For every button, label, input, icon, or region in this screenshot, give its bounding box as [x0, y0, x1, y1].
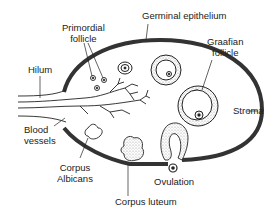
label-corpus-albicans: Corpus Albicans [57, 162, 93, 184]
label-primordial-follicle: Primordial follicle [62, 22, 105, 44]
graafian-follicle [178, 86, 218, 126]
label-line: vessels [24, 135, 56, 146]
ovary-diagram: Primordial follicle Germinal epithelium … [0, 0, 278, 216]
corpus-luteum [121, 136, 144, 160]
corpus-albicans [85, 124, 102, 139]
primordial-follicles [91, 76, 107, 91]
hilum-vessels [18, 78, 150, 122]
label-hilum: Hilum [28, 64, 52, 75]
label-blood-vessels: Blood vessels [24, 124, 56, 146]
label-line: Primordial [62, 22, 105, 33]
label-ovulation: Ovulation [154, 176, 194, 187]
label-stroma: Stroma [233, 105, 264, 116]
label-line: Corpus [57, 162, 93, 173]
ruptured-follicle [161, 123, 188, 160]
label-germinal-epithelium: Germinal epithelium [142, 10, 226, 21]
label-line: follicle [62, 33, 105, 44]
label-line: Albicans [57, 173, 93, 184]
label-line: Graafian [207, 36, 243, 47]
label-line: follicle [207, 47, 243, 58]
secondary-follicle [151, 55, 181, 85]
label-corpus-luteum: Corpus luteum [115, 196, 177, 207]
growing-follicle [118, 62, 132, 74]
released-ovum [169, 164, 177, 172]
label-graafian-follicle: Graafian follicle [207, 36, 243, 58]
label-line: Blood [24, 124, 56, 135]
